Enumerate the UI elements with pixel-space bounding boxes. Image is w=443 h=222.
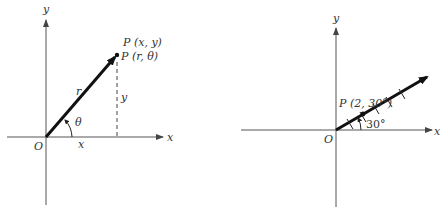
left-diagram: y x O x y r θ P (x, y) P (r, θ) bbox=[7, 3, 174, 205]
point-rect-coords-label: P (x, y) bbox=[122, 36, 162, 49]
polar-coordinates-figure: y x O x y r θ P (x, y) P (r, θ) y x O P … bbox=[0, 0, 443, 222]
vertical-y-label: y bbox=[120, 91, 128, 104]
point-polar-coords-label: P (r, θ) bbox=[120, 50, 158, 63]
x-axis-label: x bbox=[434, 125, 441, 138]
x-axis-label: x bbox=[167, 131, 174, 144]
theta-label: θ bbox=[75, 116, 82, 129]
point-label: P (2, 30°) bbox=[338, 97, 392, 110]
point-p bbox=[361, 112, 366, 117]
angle-label: 30° bbox=[366, 118, 386, 131]
y-axis-label: y bbox=[42, 3, 50, 16]
horizontal-x-label: x bbox=[78, 138, 85, 151]
radius-r-label: r bbox=[76, 85, 82, 98]
point-p bbox=[115, 53, 119, 57]
origin-label: O bbox=[34, 140, 43, 153]
angle-theta-arc bbox=[65, 120, 72, 137]
origin-label: O bbox=[324, 133, 333, 146]
angle-30-arc bbox=[358, 118, 361, 130]
right-diagram: y x O P (2, 30°) 30° bbox=[241, 12, 441, 207]
y-axis-label: y bbox=[332, 12, 340, 25]
